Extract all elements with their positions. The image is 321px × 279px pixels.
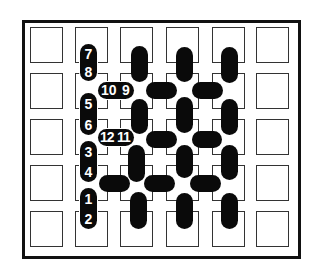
grid-cell <box>30 211 63 247</box>
grid-cell <box>256 211 289 247</box>
grid-cell <box>256 27 289 63</box>
grid-cell <box>30 119 63 155</box>
horizontal-pill <box>192 131 222 148</box>
vertical-pill <box>221 193 238 229</box>
grid-cell <box>30 165 63 201</box>
pill-label: 6 <box>80 118 97 132</box>
pill-label: 4 <box>80 165 97 179</box>
grid-cell <box>256 73 289 109</box>
pill-label: 12 <box>100 129 114 146</box>
vertical-pill <box>176 193 193 229</box>
numbered-pill-12-11: 12 11 <box>98 129 134 146</box>
vertical-pill <box>128 145 145 182</box>
grid-cell <box>256 119 289 155</box>
horizontal-pill <box>99 175 130 192</box>
pill-label: 9 <box>122 82 130 99</box>
horizontal-pill <box>146 131 177 148</box>
pill-label: 5 <box>80 97 97 111</box>
numbered-pill-1-2: 1 2 <box>80 188 97 229</box>
vertical-pill <box>221 145 238 180</box>
vertical-pill <box>176 47 193 82</box>
vertical-pill <box>130 192 147 229</box>
pill-label: 8 <box>80 65 97 79</box>
pill-label: 10 <box>101 82 117 99</box>
vertical-pill <box>176 97 193 133</box>
vertical-pill <box>221 99 238 135</box>
vertical-pill <box>131 99 148 134</box>
grid-cell <box>30 73 63 109</box>
horizontal-pill <box>192 82 223 99</box>
grid-cell <box>256 165 289 201</box>
horizontal-pill <box>144 175 175 192</box>
pill-label: 3 <box>80 145 97 159</box>
vertical-pill <box>221 47 238 83</box>
vertical-pill <box>176 145 193 178</box>
horizontal-pill <box>146 82 177 99</box>
pill-label: 7 <box>80 47 97 61</box>
grid-cell <box>30 27 63 63</box>
horizontal-pill <box>190 175 221 192</box>
vertical-pill <box>131 46 148 82</box>
numbered-pill-5-6: 5 6 <box>80 93 97 135</box>
numbered-pill-7-8: 7 8 <box>80 44 97 81</box>
pill-label: 11 <box>117 129 130 146</box>
pill-label: 2 <box>80 212 97 226</box>
numbered-pill-10-9: 10 9 <box>98 82 134 99</box>
numbered-pill-3-4: 3 4 <box>80 141 97 182</box>
pill-label: 1 <box>80 192 97 206</box>
